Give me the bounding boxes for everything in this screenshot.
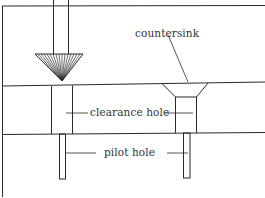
pilot-hole-label: pilot hole bbox=[104, 146, 155, 158]
right-pilot-hole bbox=[184, 133, 191, 178]
frame bbox=[2, 6, 265, 198]
upper-board-bottom-line bbox=[2, 82, 265, 86]
countersink-leader bbox=[168, 35, 188, 82]
screw-head-icon bbox=[35, 54, 83, 81]
screw-assembly bbox=[35, 0, 83, 179]
countersink-label: countersink bbox=[135, 27, 200, 39]
screw-hole-diagram: countersink clearance hole pilot hole bbox=[0, 0, 265, 197]
clearance-hole-label: clearance hole bbox=[90, 106, 169, 118]
leader-lines bbox=[66, 35, 193, 153]
left-pilot-hole bbox=[60, 134, 66, 179]
lower-board-top-line bbox=[2, 133, 265, 135]
countersink-icon bbox=[162, 83, 208, 97]
frame-top-edge bbox=[2, 6, 265, 7]
countersunk-hole bbox=[162, 83, 208, 178]
